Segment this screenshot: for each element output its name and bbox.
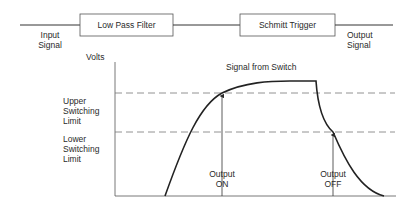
upper-switching-limit-label: Upper Switching Limit bbox=[63, 96, 99, 126]
output-off-label: Output OFF bbox=[313, 169, 353, 189]
curve-label: Signal from Switch bbox=[226, 62, 296, 72]
lower-switching-limit-label: Lower Switching Limit bbox=[63, 134, 99, 164]
output-signal-label: Output Signal bbox=[347, 30, 373, 50]
y-axis-label: Volts bbox=[86, 52, 104, 62]
output-on-label: Output ON bbox=[202, 169, 242, 189]
input-signal-label: Input Signal bbox=[33, 30, 67, 50]
schmitt-trigger-label: Schmitt Trigger bbox=[240, 14, 335, 36]
low-pass-filter-label: Low Pass Filter bbox=[80, 14, 173, 36]
